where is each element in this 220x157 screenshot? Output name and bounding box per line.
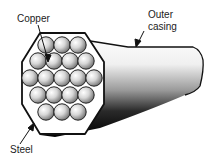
steel-leader-arrow [20,123,34,144]
copper-label: Copper [17,13,50,24]
outer-casing-leader-arrow [135,31,144,47]
outer-casing-label-line1: Outer [148,9,173,20]
outer-casing-label-line2: casing [148,21,177,32]
steel-label: Steel [10,144,33,155]
